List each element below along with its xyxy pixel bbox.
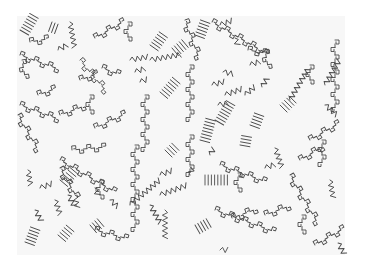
paper-sheet: [17, 16, 345, 255]
line-art-drawing: [0, 0, 371, 277]
